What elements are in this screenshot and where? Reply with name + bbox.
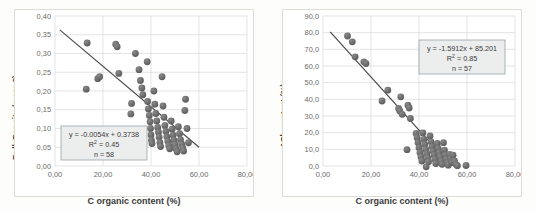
- data-point: [115, 70, 122, 77]
- data-point: [181, 107, 188, 114]
- svg-text:0,35: 0,35: [37, 30, 51, 39]
- svg-text:0,15: 0,15: [37, 105, 51, 114]
- svg-text:40,00: 40,00: [410, 170, 429, 179]
- data-point: [149, 140, 156, 147]
- svg-text:80,0: 80,0: [305, 28, 319, 37]
- data-point: [161, 114, 168, 121]
- svg-text:60,00: 60,00: [458, 170, 477, 179]
- svg-text:80,00: 80,00: [238, 170, 253, 179]
- svg-text:0,10: 0,10: [37, 124, 51, 133]
- data-point: [147, 125, 154, 132]
- data-point: [139, 91, 146, 98]
- scatter-plot-bulk-density: 0,000,050,100,150,200,250,300,350,400,00…: [15, 10, 253, 196]
- svg-text:40,0: 40,0: [305, 95, 319, 104]
- data-point: [454, 162, 461, 169]
- data-point: [150, 88, 157, 95]
- x-axis-label-left: C organic content (%): [14, 196, 254, 206]
- svg-text:60,00: 60,00: [190, 170, 209, 179]
- svg-text:30,0: 30,0: [305, 112, 319, 121]
- data-point: [344, 33, 351, 40]
- data-point: [152, 110, 159, 117]
- data-point: [440, 139, 447, 146]
- r-squared-value: R2 = 0.85: [447, 53, 477, 63]
- data-point: [427, 133, 434, 140]
- data-point: [132, 50, 139, 57]
- data-point: [151, 101, 158, 108]
- data-point: [146, 112, 153, 119]
- data-point: [407, 115, 414, 122]
- svg-text:0,40: 0,40: [37, 12, 51, 21]
- chart-panel-bulk-density: Bulk Density (g cm-3) 0,000,050,100,150,…: [0, 0, 268, 211]
- data-point: [463, 162, 470, 169]
- chart-frame-left: 0,000,050,100,150,200,250,300,350,400,00…: [14, 9, 254, 197]
- data-point: [84, 40, 91, 47]
- data-point: [138, 85, 145, 92]
- data-point: [418, 158, 425, 165]
- data-point: [153, 118, 160, 125]
- svg-text:90,0: 90,0: [305, 12, 319, 21]
- svg-text:60,0: 60,0: [305, 62, 319, 71]
- data-point: [145, 106, 152, 113]
- svg-text:0,30: 0,30: [37, 49, 51, 58]
- data-point: [144, 58, 151, 65]
- svg-text:70,0: 70,0: [305, 45, 319, 54]
- data-point: [352, 53, 359, 60]
- data-point: [96, 73, 103, 80]
- data-point: [184, 125, 191, 132]
- svg-text:40,00: 40,00: [142, 170, 161, 179]
- data-point: [144, 98, 151, 105]
- chart-panel-ash-content: ASh content (%) 0,010,020,030,040,050,06…: [268, 0, 536, 211]
- figure-container: Bulk Density (g cm-3) 0,000,050,100,150,…: [0, 0, 536, 211]
- data-point: [174, 148, 181, 155]
- data-point: [137, 77, 144, 84]
- data-point: [136, 66, 143, 73]
- data-point: [162, 122, 169, 129]
- data-point: [160, 103, 167, 110]
- data-point: [182, 96, 189, 103]
- regression-equation: y = -1.5912x + 85.201: [427, 44, 497, 53]
- data-point: [147, 118, 154, 125]
- data-point: [127, 110, 134, 117]
- r-squared-value: R2 = 0.45: [89, 139, 119, 149]
- svg-text:50,0: 50,0: [305, 78, 319, 87]
- data-point: [159, 73, 166, 80]
- svg-text:10,0: 10,0: [305, 145, 319, 154]
- data-point: [168, 118, 175, 125]
- data-point: [180, 148, 187, 155]
- data-point: [419, 130, 426, 137]
- svg-text:0,05: 0,05: [37, 143, 51, 152]
- data-point: [349, 38, 356, 45]
- regression-equation: y = -0.0054x + 0.3738: [69, 130, 139, 139]
- data-point: [423, 163, 430, 170]
- x-axis-label-right: C organic content (%): [282, 196, 522, 206]
- data-point: [128, 100, 135, 107]
- chart-frame-right: 0,010,020,030,040,050,060,070,080,090,00…: [282, 9, 522, 197]
- data-point: [169, 126, 176, 133]
- data-point: [450, 152, 457, 159]
- data-point: [384, 87, 391, 94]
- data-point: [363, 60, 370, 67]
- data-point: [157, 143, 164, 150]
- svg-text:0,25: 0,25: [37, 68, 51, 77]
- data-point: [399, 111, 406, 118]
- svg-text:20,00: 20,00: [362, 170, 381, 179]
- scatter-plot-ash-content: 0,010,020,030,040,050,060,070,080,090,00…: [283, 10, 521, 196]
- data-point: [404, 146, 411, 153]
- svg-text:80,00: 80,00: [506, 170, 521, 179]
- svg-text:0,00: 0,00: [48, 170, 62, 179]
- data-point: [83, 86, 90, 93]
- data-point: [379, 98, 386, 105]
- data-point: [114, 43, 121, 50]
- data-point: [185, 139, 192, 146]
- data-point: [406, 105, 413, 112]
- sample-size-label: n = 57: [452, 64, 472, 73]
- svg-text:0,00: 0,00: [316, 170, 330, 179]
- sample-size-label: n = 58: [94, 150, 114, 159]
- svg-text:20,0: 20,0: [305, 128, 319, 137]
- svg-text:20,00: 20,00: [94, 170, 113, 179]
- data-point: [175, 123, 182, 130]
- data-point: [397, 93, 404, 100]
- data-point: [176, 130, 183, 137]
- svg-text:0,20: 0,20: [37, 87, 51, 96]
